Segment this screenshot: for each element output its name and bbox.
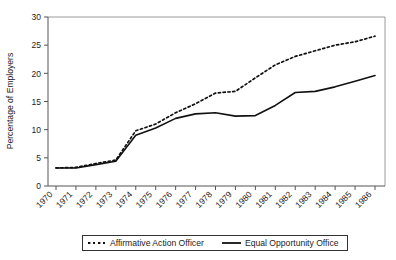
chart-svg: 051015202530 Percentage of Employers 197… [0, 0, 396, 260]
y-tick-label: 5 [36, 153, 41, 163]
legend-label-affirmative-action-officer: Affirmative Action Officer [110, 238, 204, 248]
x-tick-label: 1980 [233, 189, 254, 210]
x-tick-label: 1979 [213, 189, 234, 210]
x-tick-label: 1985 [333, 189, 354, 210]
x-tick-label: 1984 [313, 189, 334, 210]
x-tick-label: 1971 [54, 189, 75, 210]
x-tick-label: 1983 [293, 189, 314, 210]
y-tick-group: 051015202530 [32, 12, 48, 191]
x-tick-label: 1972 [74, 189, 95, 210]
x-tick-group [56, 186, 375, 190]
data-series-group [56, 36, 375, 168]
x-tick-label: 1977 [174, 189, 195, 210]
x-tick-label: 1982 [273, 189, 294, 210]
x-tick-label: 1976 [154, 189, 175, 210]
x-tick-label: 1981 [253, 189, 274, 210]
x-tick-label: 1978 [193, 189, 214, 210]
series-affirmative-action-officer [56, 36, 375, 168]
y-tick-label: 25 [32, 40, 42, 50]
y-tick-label: 15 [32, 97, 42, 107]
y-axis-title: Percentage of Employers [5, 53, 15, 150]
series-equal-opportunity-office [56, 76, 375, 168]
x-tick-label-group: 1970197119721973197419751976197719781979… [34, 189, 374, 210]
x-tick-label: 1974 [114, 189, 135, 210]
chart-legend: Affirmative Action Officer Equal Opportu… [83, 236, 348, 251]
legend-label-equal-opportunity-office: Equal Opportunity Office [245, 238, 339, 248]
y-tick-label: 0 [36, 181, 41, 191]
x-tick-label: 1970 [34, 189, 55, 210]
chart-figure: 051015202530 Percentage of Employers 197… [0, 0, 396, 260]
y-tick-label: 10 [32, 125, 42, 135]
x-tick-label: 1973 [94, 189, 115, 210]
y-tick-label: 20 [32, 69, 42, 79]
y-tick-label: 30 [32, 12, 42, 22]
plot-frame [48, 17, 385, 186]
x-tick-label: 1975 [134, 189, 155, 210]
x-tick-label: 1986 [353, 189, 374, 210]
